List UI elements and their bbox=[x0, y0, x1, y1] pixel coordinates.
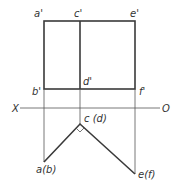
label-b-prime: b' bbox=[32, 86, 41, 97]
label-f-prime: f' bbox=[139, 86, 145, 97]
right-angle-marker bbox=[76, 128, 84, 132]
label-c-d: c (d) bbox=[84, 113, 107, 124]
top-view-v-shape bbox=[44, 124, 135, 174]
label-a-b: a(b) bbox=[36, 164, 56, 175]
axis-label-o: O bbox=[162, 103, 170, 114]
projection-diagram: a' c' e' b' d' f' X O c (d) a(b) e(f) bbox=[0, 0, 180, 191]
label-e-f: e(f) bbox=[138, 169, 155, 180]
label-e-prime: e' bbox=[130, 8, 139, 19]
label-d-prime: d' bbox=[83, 76, 92, 87]
label-c-prime: c' bbox=[74, 8, 82, 19]
label-a-prime: a' bbox=[34, 8, 43, 19]
axis-label-x: X bbox=[11, 103, 20, 114]
